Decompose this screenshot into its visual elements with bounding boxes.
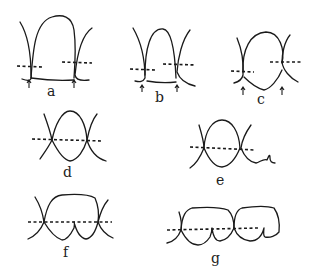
panel-g: g bbox=[167, 207, 279, 267]
tooth-contact-diagram: a b c d e bbox=[0, 0, 313, 279]
panel-a: a bbox=[17, 16, 92, 99]
panel-c: c bbox=[231, 32, 301, 107]
panel-d-label: d bbox=[63, 164, 72, 180]
panel-a-label: a bbox=[47, 83, 55, 99]
panel-e-label: e bbox=[216, 172, 224, 188]
panel-f-label: f bbox=[63, 244, 70, 260]
panel-b: b bbox=[130, 28, 196, 105]
panel-b-label: b bbox=[155, 89, 164, 105]
panel-c-label: c bbox=[257, 91, 265, 107]
panel-g-label: g bbox=[211, 250, 220, 266]
panel-d: d bbox=[32, 111, 106, 180]
panel-f: f bbox=[28, 194, 113, 260]
panel-e: e bbox=[190, 120, 275, 188]
